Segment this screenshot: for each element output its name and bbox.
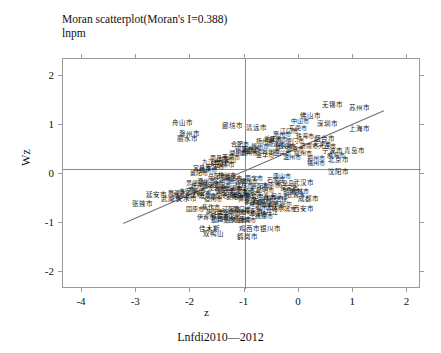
scatter-point-marker <box>208 196 209 197</box>
scatter-point-marker <box>211 162 212 163</box>
x-axis-tick <box>406 288 407 292</box>
title-block: Moran scatterplot(Moran's I=0.388) lnpm <box>62 12 227 40</box>
x-axis-tick <box>189 288 190 292</box>
scatter-point-marker <box>217 188 218 189</box>
scatter-point-marker <box>298 128 299 129</box>
scatter-point-marker <box>177 193 178 194</box>
scatter-point-marker <box>233 126 234 127</box>
x-axis-tick <box>352 288 353 292</box>
y-axis-tick-label: -2 <box>32 265 54 277</box>
scatter-point-marker <box>295 149 296 150</box>
x-axis-tick <box>244 54 245 58</box>
x-axis-tick <box>406 54 407 58</box>
horizontal-reference-line <box>63 169 421 170</box>
scatter-point-marker <box>249 229 250 230</box>
x-axis-tick <box>135 288 136 292</box>
chart-title: Moran scatterplot(Moran's I=0.388) <box>62 12 227 26</box>
figure-caption: Lnfdi2010—2012 <box>0 330 441 345</box>
chart-subtitle: lnpm <box>62 26 227 40</box>
x-axis-tick <box>81 288 82 292</box>
scatter-point-marker <box>271 185 272 186</box>
scatter-point-marker <box>199 173 200 174</box>
y-axis-tick-label: 2 <box>32 69 54 81</box>
scatter-point-marker <box>327 146 328 147</box>
y-axis-tick <box>420 124 424 125</box>
scatter-point-marker <box>230 195 231 196</box>
x-axis-tick <box>189 54 190 58</box>
y-axis-tick <box>58 222 62 223</box>
y-axis-tick <box>420 173 424 174</box>
scatter-point-marker <box>338 172 339 173</box>
x-axis-tick <box>81 54 82 58</box>
x-axis-tick <box>298 288 299 292</box>
scatter-point-marker <box>333 105 334 106</box>
x-axis-tick <box>135 54 136 58</box>
plot-frame: 舟山市廊坊市清远市无锡市苏州市佛山市上海市深圳市江门市中山市珠海市东莞市惠州市烟… <box>62 58 420 288</box>
y-axis-tick <box>420 222 424 223</box>
y-axis-tick <box>58 271 62 272</box>
scatter-point-marker <box>257 196 258 197</box>
x-axis-tick <box>352 54 353 58</box>
scatter-point-marker <box>157 195 158 196</box>
scatter-point-marker <box>206 217 207 218</box>
scatter-point-marker <box>360 129 361 130</box>
moran-scatterplot-figure: Moran scatterplot(Moran's I=0.388) lnpm … <box>0 0 441 353</box>
scatter-point-marker <box>271 229 272 230</box>
y-axis-tick <box>58 173 62 174</box>
x-axis-label: z <box>0 306 441 318</box>
scatter-point-layer: 舟山市廊坊市清远市无锡市苏州市佛山市上海市深圳市江门市中山市珠海市东莞市惠州市烟… <box>63 59 421 289</box>
scatter-point-marker <box>257 128 258 129</box>
y-axis-tick-label: 0 <box>32 167 54 179</box>
y-axis-tick <box>420 75 424 76</box>
x-axis-tick <box>298 54 299 58</box>
y-axis-tick <box>420 271 424 272</box>
y-axis-tick <box>58 75 62 76</box>
scatter-point-marker <box>188 139 189 140</box>
x-axis-tick <box>244 288 245 292</box>
y-axis-tick-label: -1 <box>32 216 54 228</box>
y-axis-tick-label: 1 <box>32 118 54 130</box>
y-axis-tick <box>58 124 62 125</box>
scatter-point-marker <box>360 108 361 109</box>
scatter-point-marker <box>309 146 310 147</box>
